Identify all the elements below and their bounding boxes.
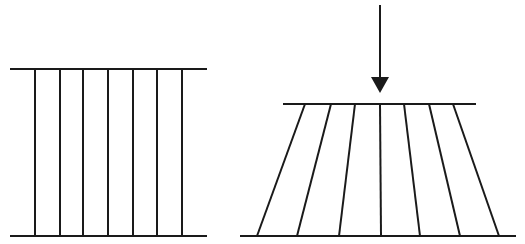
left-fibers [35,69,182,236]
fiber [297,104,331,236]
fiber [429,104,460,236]
fiber [453,104,499,236]
fiber [339,104,355,236]
right-fibers [257,104,499,236]
fiber [404,104,420,236]
left-panel-unloaded [10,69,207,236]
diagram-canvas [0,0,525,244]
fiber [257,104,305,236]
force-arrow-icon [371,5,389,93]
right-panel-loaded [240,5,516,236]
fiber [380,104,381,236]
arrow-head [371,77,389,93]
